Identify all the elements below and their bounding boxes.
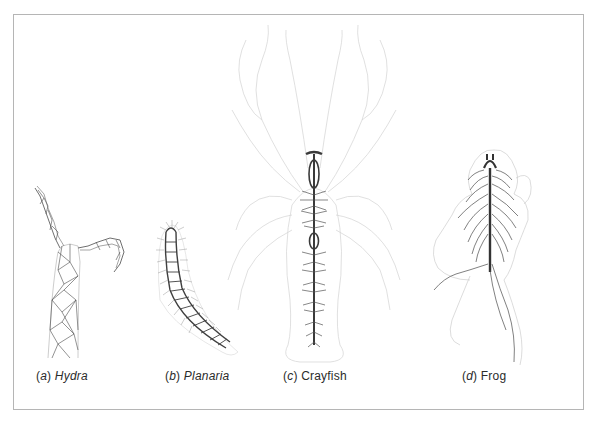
frog-illustration [433,150,531,365]
caption-frog: (d) Frog [462,369,506,383]
caption-hydra: (a) Hydra [36,369,88,383]
crayfish-illustration [228,25,400,362]
caption-organism-name: Frog [481,369,506,383]
planaria-illustration [156,220,238,355]
nervous-systems-illustration [0,0,598,421]
hydra-illustration [35,186,124,358]
caption-organism-name: Hydra [55,369,88,383]
caption-planaria: (b) Planaria [165,369,229,383]
caption-crayfish: (c) Crayfish [283,369,347,383]
caption-organism-name: Planaria [184,369,230,383]
caption-organism-name: Crayfish [301,369,347,383]
